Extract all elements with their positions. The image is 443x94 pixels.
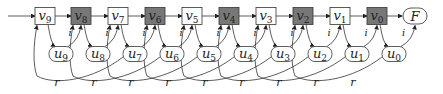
v-to-u-edge <box>195 25 203 47</box>
v-to-u-edge <box>121 25 129 47</box>
edge-label-r: r <box>128 76 134 89</box>
edge-label-r: r <box>313 76 319 89</box>
v-to-u-edge <box>306 25 314 47</box>
node-u1: u1 <box>345 46 369 63</box>
node-u9: u9 <box>49 46 73 63</box>
edge-label-r: r <box>202 76 208 89</box>
edge-label-r: r <box>350 76 356 89</box>
node-u0: u0 <box>382 46 406 63</box>
edge-label-r: r <box>165 76 171 89</box>
node-v4: v4 <box>219 8 239 26</box>
edge-label-r: r <box>239 76 245 89</box>
edge-label-i: i <box>327 27 330 38</box>
v-to-u-edge <box>269 25 277 47</box>
node-v3: v3 <box>256 8 276 26</box>
edge-label-r: r <box>276 76 282 89</box>
v-to-u-edge <box>380 25 388 47</box>
edge-label-r: r <box>91 76 97 89</box>
node-v7: v7 <box>108 8 128 26</box>
node-label: F <box>409 9 420 24</box>
node-v8: v8 <box>71 8 91 26</box>
v-to-u-edge <box>232 25 240 47</box>
v-to-u-edge <box>158 25 166 47</box>
node-v0: v0 <box>367 8 387 26</box>
node-u7: u7 <box>123 46 147 63</box>
node-F: F <box>403 8 427 24</box>
edge-label-i: i <box>364 27 367 38</box>
node-v6: v6 <box>145 8 165 26</box>
edge-label-i: i <box>402 27 405 38</box>
node-v5: v5 <box>182 8 202 26</box>
v-to-u-edge <box>84 25 92 47</box>
node-u5: u5 <box>197 46 221 63</box>
node-u8: u8 <box>86 46 110 63</box>
node-u3: u3 <box>271 46 295 63</box>
state-diagram: iiiiiiiiiirrrrrrrrr v9v8v7v6v5v4v3v2v1v0… <box>0 0 443 94</box>
node-v1: v1 <box>330 8 350 26</box>
v-to-u-edge <box>343 25 351 47</box>
v-to-u-edge <box>48 25 55 47</box>
node-u4: u4 <box>234 46 258 63</box>
node-u2: u2 <box>308 46 332 63</box>
node-u6: u6 <box>160 46 184 63</box>
node-v9: v9 <box>35 8 55 26</box>
edge-label-r: r <box>54 76 60 89</box>
node-v2: v2 <box>293 8 313 26</box>
